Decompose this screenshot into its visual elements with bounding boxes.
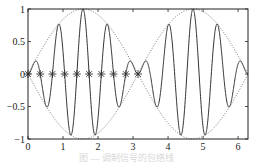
star-marker — [36, 70, 44, 78]
x-tick-label: 4 — [166, 141, 171, 150]
star-marker — [134, 70, 142, 78]
lower-envelope-line — [28, 74, 248, 139]
x-tick-label: 6 — [236, 141, 241, 150]
line-chart: 0123456−1−0.500.51 — [0, 0, 253, 150]
x-tick-label: 3 — [131, 141, 136, 150]
star-marker — [61, 70, 69, 78]
star-marker — [48, 70, 56, 78]
x-tick-label: 0 — [26, 141, 31, 150]
y-tick-label: −0.5 — [7, 101, 25, 112]
figure-caption: 图 — 调制信号的包络线 — [0, 151, 253, 164]
star-marker — [110, 70, 118, 78]
star-marker — [97, 70, 105, 78]
plot-area — [24, 9, 248, 139]
star-marker — [122, 70, 130, 78]
y-tick-label: 0 — [20, 69, 25, 80]
x-tick-label: 5 — [201, 141, 206, 150]
x-tick-label: 1 — [61, 141, 66, 150]
star-marker — [85, 70, 93, 78]
upper-envelope-line — [28, 9, 248, 74]
star-marker — [73, 70, 81, 78]
y-tick-label: 0.5 — [13, 36, 26, 47]
y-tick-label: −1 — [14, 134, 25, 145]
x-tick-label: 2 — [96, 141, 101, 150]
y-tick-label: 1 — [20, 4, 25, 15]
